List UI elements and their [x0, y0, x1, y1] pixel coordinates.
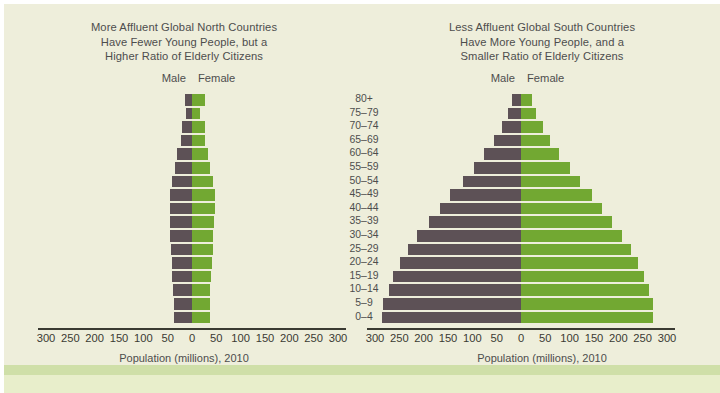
x-axis-tick-label: 150 — [256, 332, 275, 344]
x-axis-tick-label: 50 — [210, 332, 222, 344]
pyramid-row — [364, 94, 720, 106]
pyramid-row — [4, 94, 364, 106]
x-axis-tick-label: 200 — [414, 332, 433, 344]
age-group-label: 80+ — [329, 93, 399, 104]
pyramid-row — [364, 203, 720, 215]
bar-male — [172, 271, 192, 283]
pyramid-row — [4, 244, 364, 256]
x-axis-title-global-south: Population (millions), 2010 — [364, 352, 720, 364]
age-group-label: 30–34 — [329, 229, 399, 240]
age-group-label: 60–64 — [329, 147, 399, 158]
age-group-label: 35–39 — [329, 215, 399, 226]
x-axis-tick-label: 300 — [366, 332, 385, 344]
bottom-color-band-inner — [4, 375, 720, 393]
x-axis-title-global-north: Population (millions), 2010 — [4, 352, 364, 364]
age-group-label: 10–14 — [329, 283, 399, 294]
bar-male — [408, 244, 521, 256]
pyramid-row — [364, 135, 720, 147]
pyramid-row — [364, 257, 720, 269]
bar-male — [382, 312, 521, 324]
bar-female — [192, 108, 200, 120]
bar-male — [170, 216, 192, 228]
x-axis-tick-label: 100 — [463, 332, 482, 344]
bar-male — [185, 94, 192, 106]
pyramid-row — [4, 312, 364, 324]
x-axis-line-global-north — [38, 328, 346, 330]
bar-female — [521, 162, 570, 174]
bar-female — [192, 203, 215, 215]
bar-male — [177, 148, 192, 160]
age-group-label: 5–9 — [329, 297, 399, 308]
bar-female — [521, 121, 543, 133]
bar-male — [170, 189, 192, 201]
bar-male — [463, 176, 521, 188]
x-axis-tick-label: 250 — [61, 332, 80, 344]
bar-male — [512, 94, 521, 106]
pyramid-row — [4, 216, 364, 228]
pyramid-row — [364, 148, 720, 160]
bar-female — [521, 257, 638, 269]
age-group-label: 40–44 — [329, 202, 399, 213]
pyramid-row — [4, 284, 364, 296]
pyramid-row — [4, 271, 364, 283]
x-axis-tick-label: 250 — [633, 332, 652, 344]
x-axis-tick-label: 300 — [658, 332, 677, 344]
pyramid-row — [4, 148, 364, 160]
bar-male — [400, 257, 521, 269]
age-group-label: 45–49 — [329, 188, 399, 199]
pyramid-row — [364, 108, 720, 120]
bar-female — [521, 108, 536, 120]
bar-male — [494, 135, 521, 147]
age-group-label: 25–29 — [329, 243, 399, 254]
bar-male — [417, 230, 521, 242]
bar-female — [192, 148, 208, 160]
bar-female — [192, 176, 213, 188]
pyramid-row — [4, 257, 364, 269]
pyramid-row — [4, 121, 364, 133]
age-group-label: 65–69 — [329, 134, 399, 145]
figure-canvas: More Affluent Global North Countries Hav… — [4, 4, 720, 393]
pyramid-row — [4, 135, 364, 147]
pyramid-row — [4, 230, 364, 242]
bar-female — [192, 298, 210, 310]
bar-female — [192, 135, 205, 147]
bar-male — [383, 298, 521, 310]
bar-male — [174, 312, 192, 324]
pyramid-row — [364, 284, 720, 296]
x-axis-tick-label: 150 — [439, 332, 458, 344]
bar-male — [170, 230, 192, 242]
bar-male — [170, 203, 192, 215]
bar-female — [521, 271, 644, 283]
bar-male — [172, 257, 192, 269]
bar-female — [521, 230, 622, 242]
x-axis-tick-label: 100 — [560, 332, 579, 344]
bar-male — [474, 162, 521, 174]
bar-male — [181, 135, 192, 147]
x-axis-tick-label: 150 — [110, 332, 129, 344]
pyramid-row — [4, 108, 364, 120]
pyramid-row — [364, 121, 720, 133]
bar-male — [450, 189, 521, 201]
pyramid-plot-global-north — [4, 4, 364, 328]
pyramid-row — [364, 162, 720, 174]
age-group-label: 15–19 — [329, 270, 399, 281]
bar-female — [521, 244, 631, 256]
pyramid-plot-global-south — [364, 4, 720, 328]
x-axis-tick-label: 200 — [85, 332, 104, 344]
age-group-label: 50–54 — [329, 175, 399, 186]
age-group-label: 75–79 — [329, 107, 399, 118]
bar-female — [521, 135, 550, 147]
bar-female — [192, 244, 213, 256]
bar-female — [192, 257, 212, 269]
x-axis-tick-label: 0 — [189, 332, 195, 344]
x-axis-tick-label: 300 — [37, 332, 56, 344]
age-group-label: 55–59 — [329, 161, 399, 172]
x-axis-line-global-south — [367, 328, 675, 330]
bar-male — [429, 216, 521, 228]
pyramid-row — [364, 230, 720, 242]
x-axis-tick-label: 250 — [390, 332, 409, 344]
bar-female — [192, 230, 213, 242]
pyramid-row — [364, 298, 720, 310]
bar-male — [389, 284, 521, 296]
pyramid-row — [4, 203, 364, 215]
